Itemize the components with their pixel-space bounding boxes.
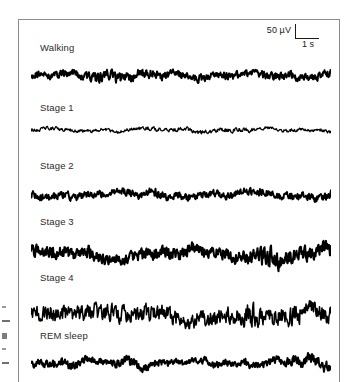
trace-label: Stage 1 (40, 102, 74, 113)
trace-label: Stage 4 (40, 272, 74, 283)
caption-mark (2, 348, 6, 350)
eeg-waveform (31, 229, 331, 280)
eeg-waveform (31, 343, 331, 382)
calibration-scale-bar: 50 µV 1 s (237, 24, 337, 54)
eeg-waveform (31, 55, 331, 96)
eeg-panel: 50 µV 1 s WalkingStage 1Stage 2Stage 3St… (18, 19, 340, 382)
eeg-figure: 50 µV 1 s WalkingStage 1Stage 2Stage 3St… (0, 0, 354, 382)
eeg-waveform (31, 173, 331, 216)
scale-bar-glyph (295, 24, 321, 39)
trace-label: Stage 3 (40, 216, 74, 227)
cropped-caption-marks (2, 300, 14, 378)
caption-mark (2, 306, 6, 308)
trace-label: Walking (40, 42, 75, 53)
caption-mark (2, 333, 7, 339)
trace-label: Stage 2 (40, 160, 74, 171)
trace-label: REM sleep (40, 330, 88, 341)
caption-mark (2, 320, 10, 322)
scale-amplitude-label: 50 µV (237, 25, 291, 35)
eeg-waveform (31, 115, 331, 145)
scale-time-label: 1 s (295, 39, 321, 49)
caption-mark (2, 362, 9, 364)
